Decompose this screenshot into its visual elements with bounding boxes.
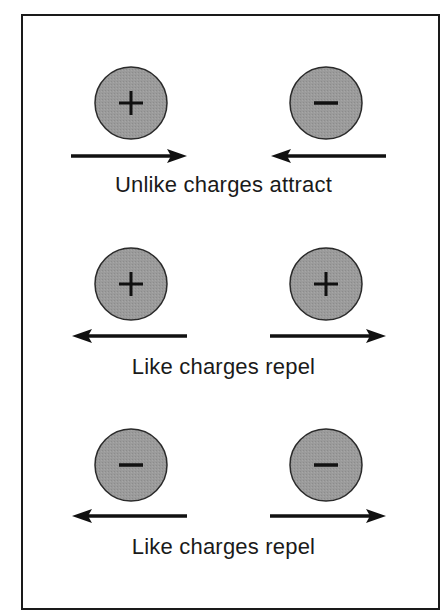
- negative-charge: [95, 429, 167, 501]
- arrow-left-icon: [72, 509, 187, 523]
- arrow-right-icon: [71, 149, 187, 163]
- caption-like-repel-negative: Like charges repel: [0, 534, 447, 560]
- arrow-left-icon: [271, 149, 386, 163]
- row-like-repel-negative: [72, 429, 386, 523]
- arrow-left-icon: [72, 329, 187, 343]
- negative-charge: [290, 67, 362, 139]
- caption-unlike-attract: Unlike charges attract: [0, 172, 447, 198]
- positive-charge: [95, 248, 167, 320]
- arrow-right-icon: [270, 329, 386, 343]
- row-like-repel-positive: [72, 248, 386, 343]
- arrow-right-icon: [270, 509, 386, 523]
- positive-charge: [290, 248, 362, 320]
- row-unlike-attract: [71, 67, 386, 163]
- positive-charge: [95, 67, 167, 139]
- caption-like-repel-positive: Like charges repel: [0, 354, 447, 380]
- charges-diagram: [0, 0, 447, 615]
- negative-charge: [290, 429, 362, 501]
